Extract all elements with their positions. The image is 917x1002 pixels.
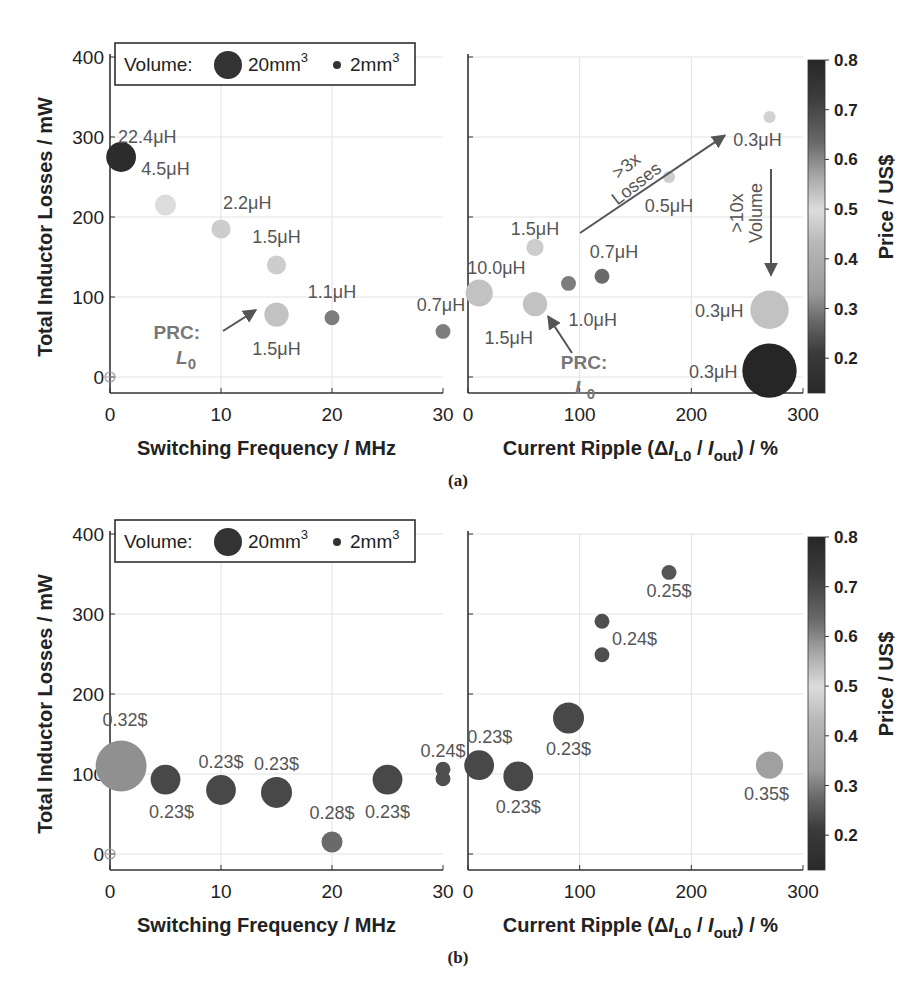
- colorbar-tick-label: 0.8: [834, 51, 858, 70]
- data-point: [553, 702, 584, 733]
- y-tick-label: 200: [72, 207, 104, 228]
- x-tick-label: 10: [210, 404, 231, 425]
- point-label: 0.24$: [420, 741, 465, 761]
- losses-arrow: [580, 135, 725, 233]
- point-label: 0.7μH: [590, 242, 638, 262]
- point-label: 0.32$: [103, 710, 148, 730]
- y-tick-label: 100: [72, 287, 104, 308]
- colorbar-tick-label: 0.3: [834, 300, 858, 319]
- legend-small-marker-icon: [333, 61, 341, 69]
- data-point: [466, 279, 493, 306]
- colorbar-tick-label: 0.2: [834, 826, 858, 845]
- prc-annotation: PRC:: [154, 322, 200, 343]
- data-point: [261, 777, 292, 808]
- legend-small-marker-icon: [333, 538, 341, 546]
- data-point: [523, 292, 547, 316]
- x-tick-label: 100: [564, 404, 596, 425]
- colorbar-tick-label: 0.4: [834, 727, 858, 746]
- data-point: [206, 775, 236, 805]
- panel-caption: (a): [448, 471, 468, 490]
- data-point: [756, 752, 783, 779]
- x-tick-label: 0: [105, 404, 116, 425]
- x-tick-label: 200: [675, 881, 707, 902]
- y-axis-label: Total Inductor Losses / mW: [34, 574, 56, 834]
- point-label: 0.23$: [496, 797, 541, 817]
- legend-large-label: 20mm3: [248, 50, 308, 75]
- point-label: 0.23$: [546, 739, 591, 759]
- point-label: 22.4μH: [118, 127, 176, 147]
- point-label: 0.25$: [646, 581, 691, 601]
- volume-legend: Volume:20mm32mm3: [115, 520, 415, 562]
- colorbar-tick-label: 0.6: [834, 150, 858, 169]
- data-point: [750, 291, 788, 329]
- point-label: 1.5μH: [485, 328, 533, 348]
- data-point: [436, 771, 451, 786]
- point-label: 1.1μH: [308, 282, 356, 302]
- volume-annotation: Volume: [746, 183, 766, 243]
- colorbar: [808, 537, 825, 870]
- data-point: [561, 276, 576, 291]
- data-point: [96, 741, 147, 792]
- point-label: 1.5μH: [252, 339, 300, 359]
- data-point: [595, 614, 610, 629]
- x-tick-label: 300: [787, 881, 819, 902]
- left-x-axis-label: Switching Frequency / MHz: [137, 437, 396, 459]
- legend-title: Volume:: [124, 54, 193, 75]
- legend-large-label: 20mm3: [248, 527, 308, 552]
- point-label: 1.5μH: [252, 227, 300, 247]
- data-point: [264, 302, 288, 326]
- x-tick-label: 20: [321, 881, 342, 902]
- legend-large-marker-icon: [214, 528, 242, 556]
- legend-small-label: 2mm3: [350, 50, 399, 75]
- y-axis-label: Total Inductor Losses / mW: [34, 97, 56, 357]
- figure: 010020030040001020300100200300Switching …: [0, 0, 917, 1002]
- point-label: 0.28$: [309, 803, 354, 823]
- point-label: 0.23$: [254, 754, 299, 774]
- y-tick-label: 400: [72, 47, 104, 68]
- point-label: 0.3μH: [733, 130, 781, 150]
- prc-arrow: [223, 310, 256, 331]
- y-tick-label: 0: [93, 367, 104, 388]
- colorbar-tick-label: 0.4: [834, 250, 858, 269]
- x-tick-label: 300: [787, 404, 819, 425]
- point-label: 4.5μH: [141, 159, 189, 179]
- colorbar: [808, 60, 825, 393]
- data-point: [503, 762, 533, 792]
- colorbar-tick-label: 0.5: [834, 677, 858, 696]
- data-point: [151, 765, 181, 795]
- x-tick-label: 30: [432, 404, 453, 425]
- data-point: [763, 111, 775, 123]
- data-point: [526, 239, 543, 256]
- colorbar-label: Price / US$: [875, 632, 897, 737]
- colorbar-tick-label: 0.8: [834, 528, 858, 547]
- y-tick-label: 200: [72, 684, 104, 705]
- x-tick-label: 20: [321, 404, 342, 425]
- panel-a: 010020030040001020300100200300Switching …: [34, 43, 897, 490]
- point-label: 0.23$: [365, 802, 410, 822]
- x-tick-label: 200: [675, 404, 707, 425]
- volume-legend: Volume:20mm32mm3: [115, 43, 415, 85]
- left-x-axis-label: Switching Frequency / MHz: [137, 914, 396, 936]
- right-x-axis-label: Current Ripple (ΔIL0 / Iout) / %: [503, 437, 778, 464]
- data-point: [155, 194, 176, 215]
- point-label: 10.0μH: [467, 258, 525, 278]
- colorbar-tick-label: 0.7: [834, 101, 858, 120]
- point-label: 0.7μH: [417, 295, 465, 315]
- point-label: 0.3μH: [689, 362, 737, 382]
- point-label: 0.23$: [467, 727, 512, 747]
- x-tick-label: 0: [105, 881, 116, 902]
- point-label: 0.23$: [198, 752, 243, 772]
- data-point: [595, 647, 610, 662]
- data-point: [211, 219, 230, 238]
- data-point: [595, 269, 610, 284]
- x-tick-label: 0: [463, 881, 474, 902]
- data-point: [373, 765, 403, 795]
- prc-annotation: L0: [176, 347, 196, 372]
- colorbar-tick-label: 0.7: [834, 578, 858, 597]
- data-point: [742, 343, 796, 397]
- y-tick-label: 400: [72, 524, 104, 545]
- y-tick-label: 0: [93, 844, 104, 865]
- prc-annotation: L0: [575, 377, 595, 402]
- prc-annotation: PRC:: [561, 352, 607, 373]
- point-label: 0.24$: [612, 629, 657, 649]
